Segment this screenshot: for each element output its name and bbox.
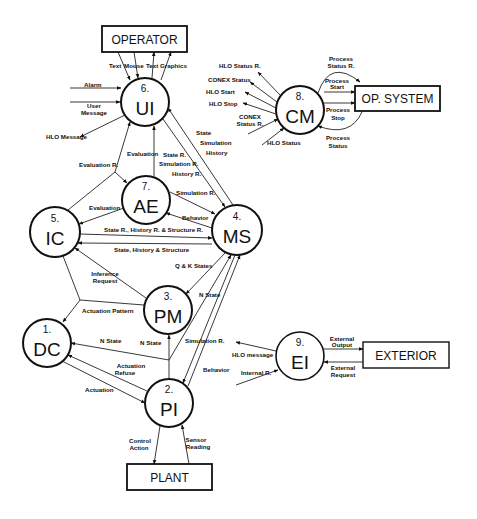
label-process-status-1: Process <box>326 134 351 141</box>
label-actuation-refuse-1: Actuation <box>117 362 146 369</box>
label-action: Action <box>129 444 148 451</box>
label-process-status-2: Status <box>329 142 348 149</box>
label-simulation: Simulation <box>200 139 232 146</box>
process-number: 8. <box>296 91 304 102</box>
flow-cm-hlo-status-r <box>258 72 280 95</box>
external-operator: OPERATOR <box>102 26 187 52</box>
process-ms: 4. MS <box>212 205 262 255</box>
label-cm-hlo-start: HLO Start <box>206 88 235 95</box>
flow-cm-conex-status <box>250 82 277 102</box>
label-simulation-r-ae-ms: Simulation R. <box>176 189 216 196</box>
label-alarm: Alarm <box>84 81 102 88</box>
flow-state-history-structure <box>78 243 212 244</box>
process-label: CM <box>285 106 315 127</box>
process-number: 3. <box>164 291 172 302</box>
process-ui: 6. UI <box>121 78 169 126</box>
process-ic: 5. IC <box>30 207 80 257</box>
process-dc: 1. DC <box>23 319 71 367</box>
label-text-in: Text <box>109 62 121 69</box>
process-ei: 9. EI <box>276 332 324 380</box>
label-actuation-pattern: Actuation Pattern <box>82 307 134 314</box>
process-number: 4. <box>233 211 241 222</box>
label-cm-status-r: Status R. <box>237 120 264 127</box>
label-user: User <box>87 102 101 109</box>
external-op-system: OP. SYSTEM <box>355 86 440 111</box>
label-ei-internal-r: Internal R. <box>241 369 272 376</box>
external-exterior: EXTERIOR <box>363 342 449 368</box>
label-ei-hlo-message: HLO message <box>232 351 274 358</box>
label-request: Request <box>93 277 117 284</box>
label-actuation-refuse-2: Refuse <box>115 369 136 376</box>
process-label: AE <box>133 196 158 217</box>
label-simulation-r: Simulation R. <box>159 160 199 167</box>
process-label: DC <box>33 339 60 360</box>
label-history-r: History R. <box>172 170 202 177</box>
label-simulation-r-pi: Simulation R. <box>185 337 225 344</box>
label-mouse: Mouse <box>124 62 144 69</box>
label-external-request-1: External <box>331 364 356 371</box>
label-state-history-structure-r: State R., History R. & Structure R. <box>104 226 203 233</box>
label-evaluation-ae-ui: Evaluation <box>127 150 159 157</box>
external-plant: PLANT <box>127 464 212 490</box>
label-q-k-states: Q & K States <box>175 262 213 269</box>
label-state-r: State R. <box>163 151 186 158</box>
process-number: 6. <box>141 83 149 94</box>
process-label: PM <box>154 306 183 327</box>
process-pm: 3. PM <box>144 286 192 334</box>
label-n-state-dc: N State <box>100 337 122 344</box>
label-n-state-ms: N State <box>199 291 221 298</box>
label-history: History <box>206 149 228 156</box>
process-number: 2. <box>165 384 173 395</box>
label-cm-conex: CONEX <box>239 113 262 120</box>
label-state-history-structure: State, History & Structure <box>114 246 190 253</box>
label-reading: Reading <box>186 443 211 450</box>
label-external-output-2: Output <box>332 341 352 348</box>
process-number: 5. <box>51 213 59 224</box>
operator-label: OPERATOR <box>111 33 178 47</box>
label-actuation: Actuation <box>85 386 114 393</box>
label-sensor: Sensor <box>186 436 208 443</box>
flow-control-action <box>154 426 160 464</box>
label-process-stop-2: Stop <box>331 114 345 121</box>
process-label: IC <box>46 228 65 249</box>
label-message: Message <box>81 109 108 116</box>
plant-label: PLANT <box>150 471 189 485</box>
label-n-state-pm: N State <box>140 339 162 346</box>
label-process-stop-1: Process <box>326 106 351 113</box>
label-process-status-r-2: Status R. <box>328 62 355 69</box>
flow-q-k-states <box>186 253 225 294</box>
label-cm-hlo-stop: HLO Stop <box>209 100 238 107</box>
label-cm-conex-status: CONEX Status <box>208 76 251 83</box>
label-hlo-message: HLO Message <box>46 133 87 140</box>
label-evaluation-r: Evaluation R. <box>79 161 118 168</box>
label-cm-hlo-status: HLO Status <box>267 139 301 146</box>
process-label: PI <box>160 399 178 420</box>
label-evaluation-ae-ic: Evaluation <box>89 204 121 211</box>
label-behavior-ms-ae: Behavior <box>182 214 209 221</box>
flow-state-history-structure-r <box>80 234 212 238</box>
flow-actuation-pattern <box>80 300 144 305</box>
process-label: MS <box>223 226 252 247</box>
label-state: State <box>196 129 212 136</box>
label-behavior-pi: Behavior <box>203 366 230 373</box>
flow-evaluation-r-ae <box>115 172 127 183</box>
process-label: EI <box>291 352 309 373</box>
flow-junction-dc <box>63 300 80 322</box>
label-text-out: Text <box>146 62 158 69</box>
process-label: UI <box>136 98 155 119</box>
process-number: 1. <box>43 324 51 335</box>
label-process-start-2: Start <box>330 83 344 90</box>
process-cm: 8. CM <box>276 86 324 134</box>
label-graphics: Graphics <box>160 62 187 69</box>
data-flow-diagram: OPERATOR OP. SYSTEM EXTERIOR PLANT 1. DC… <box>0 0 477 519</box>
process-number: 9. <box>296 337 304 348</box>
exterior-label: EXTERIOR <box>375 349 437 363</box>
label-control: Control <box>129 437 151 444</box>
process-ae: 7. AE <box>122 176 170 224</box>
process-pi: 2. PI <box>145 379 193 427</box>
label-process-status-r-1: Process <box>329 55 354 62</box>
label-inference: Inference <box>91 270 119 277</box>
op-system-label: OP. SYSTEM <box>362 92 434 106</box>
label-cm-hlo-status-r: HLO Status R. <box>219 62 261 69</box>
flow-ic-junction <box>63 256 80 300</box>
